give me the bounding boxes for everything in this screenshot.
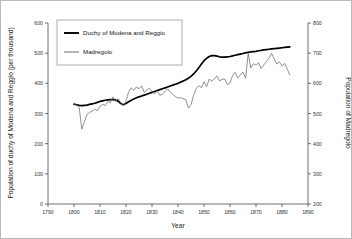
- x-axis-tick-label: 1800: [68, 209, 80, 215]
- legend-box: [57, 20, 182, 65]
- y-axis-left-tick-label: 400: [34, 80, 43, 86]
- y-axis-left-tick-label: 100: [34, 171, 43, 177]
- y-axis-left-title: Population of duchy of Modena and Reggio…: [7, 27, 15, 198]
- x-axis-tick-label: 1790: [42, 209, 54, 215]
- x-axis-tick-label: 1870: [250, 209, 262, 215]
- y-axis-left-tick-label: 500: [34, 50, 43, 56]
- chart-canvas: 0100200300400500600 20030040050060070080…: [1, 1, 352, 239]
- x-axis-tick-label: 1880: [276, 209, 288, 215]
- legend-label-duchy: Duchy of Modena and Reggio: [83, 29, 165, 36]
- x-axis-tick-label: 1850: [198, 209, 210, 215]
- y-axis-right-tick-label: 400: [313, 141, 322, 147]
- y-axis-left-tick-label: 200: [34, 141, 43, 147]
- y-axis-right-ticks: 200300400500600700800: [308, 20, 322, 207]
- y-axis-right-tick-label: 600: [313, 80, 322, 86]
- y-axis-right-tick-label: 800: [313, 20, 322, 26]
- legend-label-madregolo: Madregolo: [83, 48, 113, 55]
- y-axis-left-tick-label: 600: [34, 20, 43, 26]
- x-axis-tick-label: 1860: [224, 209, 236, 215]
- legend: Duchy of Modena and Reggio Madregolo: [57, 20, 182, 65]
- y-axis-right-tick-label: 200: [313, 201, 322, 207]
- x-axis-tick-label: 1810: [94, 209, 106, 215]
- x-axis-ticks: 1790180018101820183018401850186018701880…: [42, 204, 314, 215]
- x-axis-title: Year: [171, 222, 185, 229]
- x-axis-tick-label: 1890: [302, 209, 314, 215]
- x-axis-tick-label: 1840: [172, 209, 184, 215]
- y-axis-left-ticks: 0100200300400500600: [34, 20, 48, 207]
- y-axis-left-tick-label: 300: [34, 111, 43, 117]
- y-axis-left-tick-label: 0: [40, 201, 43, 207]
- y-axis-right-title: Population of Madregolo: [344, 77, 352, 149]
- y-axis-right-tick-label: 300: [313, 171, 322, 177]
- y-axis-right-tick-label: 500: [313, 111, 322, 117]
- y-axis-right-tick-label: 700: [313, 50, 322, 56]
- chart-figure: 0100200300400500600 20030040050060070080…: [0, 0, 352, 239]
- x-axis-tick-label: 1820: [120, 209, 132, 215]
- x-axis-tick-label: 1830: [146, 209, 158, 215]
